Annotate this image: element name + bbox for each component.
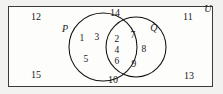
element-outside: 14 (110, 8, 120, 18)
element-p-only: 5 (84, 54, 89, 64)
element-outside: 11 (183, 12, 193, 22)
set-label-p: P (62, 24, 68, 34)
element-q-only: 8 (142, 44, 147, 54)
element-outside: 15 (31, 70, 41, 80)
element-outside: 10 (108, 75, 118, 85)
element-q-only: 9 (132, 59, 137, 69)
element-p-only: 3 (95, 32, 100, 42)
set-label-q: Q (150, 23, 157, 33)
element-intersection: 6 (115, 56, 120, 66)
element-intersection: 4 (115, 45, 120, 55)
element-p-only: 1 (80, 33, 85, 43)
universal-set-label: U (204, 4, 211, 14)
venn-diagram-figure: U P Q 1 3 5 2 4 6 7 8 9 12 14 11 15 10 1… (0, 0, 223, 94)
element-q-only: 7 (131, 30, 136, 40)
element-intersection: 2 (115, 34, 120, 44)
element-outside: 13 (184, 71, 194, 81)
element-outside: 12 (31, 12, 41, 22)
